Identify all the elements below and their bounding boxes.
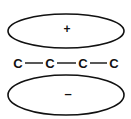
carbon-atom: C xyxy=(109,56,119,71)
carbon-atom: C xyxy=(13,56,23,71)
carbon-chain: C C C C xyxy=(13,56,119,71)
top-lobe-sign: + xyxy=(63,22,70,36)
carbon-atom: C xyxy=(45,56,55,71)
bottom-lobe-sign: – xyxy=(64,86,71,101)
orbital-diagram: + C C C C – xyxy=(0,0,131,119)
carbon-atom: C xyxy=(78,56,88,71)
